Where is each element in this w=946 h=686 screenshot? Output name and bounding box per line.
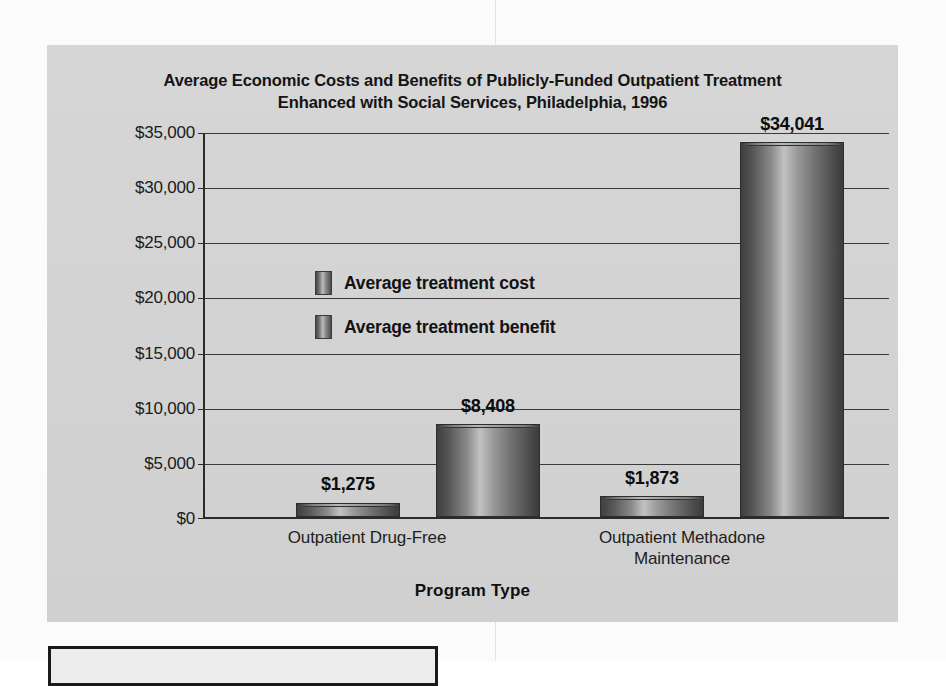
chart-panel: Average Economic Costs and Benefits of P… [47,45,898,622]
bar-benefit-outpatient-methadone-maintenance [740,142,844,517]
legend-swatch-icon-benefit [315,315,332,339]
category-label-line-2b: Maintenance [542,548,822,569]
legend-swatch-icon-cost [315,271,332,295]
category-label-outpatient-methadone-maintenance: Outpatient Methadone Maintenance [542,527,822,569]
bar-value-label-cost-drug-free: $1,275 [276,474,420,495]
y-axis-tick-labels: $35,000 $30,000 $25,000 $20,000 $15,000 … [83,133,195,519]
chart-title: Average Economic Costs and Benefits of P… [47,69,898,113]
legend-label-cost: Average treatment cost [344,273,535,294]
chart-title-line-2: Enhanced with Social Services, Philadelp… [47,91,898,113]
y-tick-label-25000: $25,000 [85,233,195,253]
category-label-line-1: Outpatient Drug-Free [237,527,497,548]
chart-legend: Average treatment cost Average treatment… [315,267,645,355]
axis-tick-5000 [198,464,205,465]
y-tick-label-35000: $35,000 [85,123,195,143]
bar-value-label-benefit-drug-free: $8,408 [416,396,560,417]
legend-item-average-treatment-cost: Average treatment cost [315,267,645,299]
bar-cost-outpatient-methadone-maintenance [600,496,704,517]
axis-tick-35000 [198,133,205,134]
axis-tick-15000 [198,354,205,355]
bar-value-label-benefit-methadone: $34,041 [720,114,864,135]
legend-item-average-treatment-benefit: Average treatment benefit [315,311,645,343]
bar-benefit-outpatient-drug-free [436,424,540,517]
y-tick-label-30000: $30,000 [85,178,195,198]
chart-title-line-1: Average Economic Costs and Benefits of P… [47,69,898,91]
bottom-content-box [48,646,438,686]
y-tick-label-10000: $10,000 [85,399,195,419]
bar-cost-outpatient-drug-free [296,503,400,517]
legend-label-benefit: Average treatment benefit [344,317,556,338]
y-tick-label-15000: $15,000 [85,344,195,364]
axis-tick-0 [198,518,205,519]
x-axis-title: Program Type [47,581,898,601]
axis-tick-25000 [198,243,205,244]
axis-tick-10000 [198,409,205,410]
category-label-outpatient-drug-free: Outpatient Drug-Free [237,527,497,548]
axis-tick-30000 [198,188,205,189]
axis-tick-20000 [198,298,205,299]
bar-value-label-cost-methadone: $1,873 [580,468,724,489]
category-label-line-1b: Outpatient Methadone [542,527,822,548]
y-tick-label-0: $0 [85,509,195,529]
y-tick-label-5000: $5,000 [85,454,195,474]
y-tick-label-20000: $20,000 [85,288,195,308]
